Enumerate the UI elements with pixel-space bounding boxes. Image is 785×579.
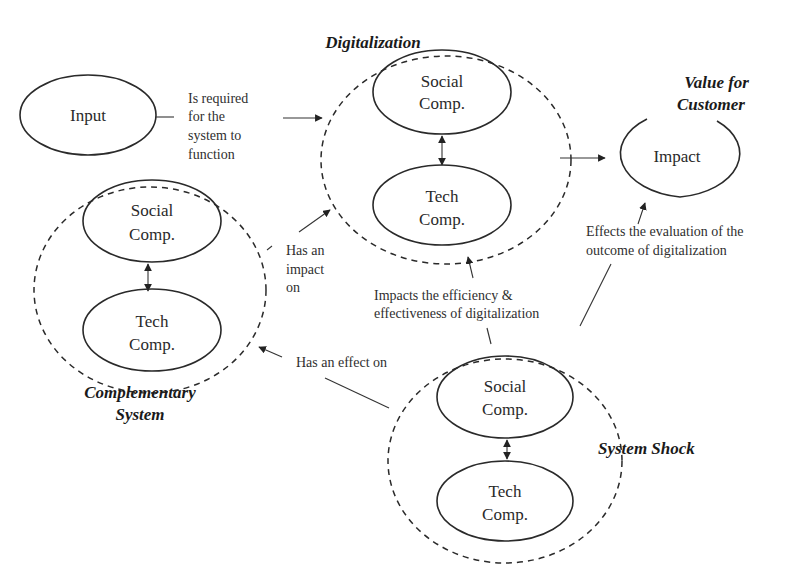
system-shock-system: Social Comp. Tech Comp. [388,356,622,563]
complementary-to-impact-line [267,246,272,250]
diagram-svg: Input Is required for the system to func… [0,0,785,579]
shock-to-evaluation-line [580,264,611,326]
shock-social-label-2: Comp. [482,400,528,419]
svg-text:function: function [188,147,235,162]
complementary-title: Complementary System [84,383,196,424]
input-node: Input [20,75,156,155]
svg-text:on: on [286,280,300,295]
digitalization-system: Social Comp. Tech Comp. [321,50,571,264]
complementary-system: Social Comp. Tech Comp. [34,180,266,393]
svg-text:Customer: Customer [677,95,745,114]
complementary-tech-label: Tech [136,312,169,331]
svg-text:effectiveness of digitalizatio: effectiveness of digitalization [374,306,539,321]
input-edge-label: Is required for the system to function [188,91,248,162]
svg-text:Has an: Has an [286,243,325,258]
svg-text:impact: impact [286,262,324,277]
system-shock-title: System Shock [598,439,695,458]
complementary-social-label: Social [131,201,174,220]
shock-to-efficiency-line [487,328,491,344]
input-label: Input [70,106,106,125]
shock-tech-label: Tech [489,482,522,501]
svg-text:outcome of digitalization: outcome of digitalization [586,243,727,258]
has-effect-on-label: Has an effect on [296,355,387,370]
complementary-social-ellipse [83,180,221,262]
impacts-efficiency-label: Impacts the efficiency & effectiveness o… [374,288,539,321]
svg-text:Value for: Value for [684,73,749,92]
impact-node: Impact [620,119,739,197]
effects-evaluation-label: Effects the evaluation of the outcome of… [586,224,744,258]
digitalization-social-label-2: Comp. [419,94,465,113]
svg-text:System: System [115,405,164,424]
impact-on-digitalization-arrow [299,210,330,232]
digitalization-social-label: Social [421,72,464,91]
complementary-social-label-2: Comp. [129,225,175,244]
svg-text:Is required: Is required [188,91,248,106]
digitalization-tech-label-2: Comp. [419,210,465,229]
svg-text:Complementary: Complementary [84,383,196,402]
digitalization-tech-label: Tech [426,187,459,206]
complementary-tech-label-2: Comp. [129,335,175,354]
evaluation-to-impact-arrow [638,203,645,224]
shock-social-label: Social [484,377,527,396]
efficiency-to-digitalization-arrow [468,257,473,278]
digitalization-title: Digitalization [324,33,420,52]
shock-tech-label-2: Comp. [482,505,528,524]
svg-text:Effects the evaluation of the: Effects the evaluation of the [586,224,744,239]
shock-to-complementary-line [325,378,389,408]
diagram-canvas: Input Is required for the system to func… [0,0,785,579]
svg-text:for the: for the [188,109,225,124]
value-title: Value for Customer [677,73,749,114]
shock-tech-ellipse [437,461,573,541]
digitalization-social-ellipse [373,50,511,134]
impact-label: Impact [653,147,700,166]
shock-social-ellipse [437,356,573,438]
effect-on-complementary-arrow [259,347,282,357]
has-impact-on-label: Has an impact on [286,243,325,295]
svg-text:system to: system to [188,128,241,143]
svg-text:Impacts the efficiency &: Impacts the efficiency & [374,288,513,303]
